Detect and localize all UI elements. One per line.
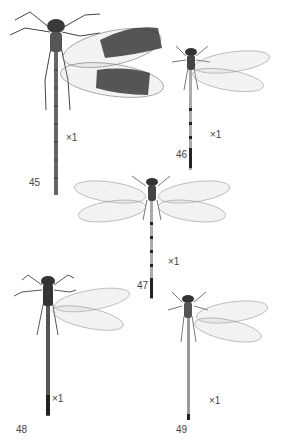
figure-46-scale: ×1 — [210, 130, 221, 140]
figure-48-number: 48 — [16, 425, 27, 435]
dragonfly-illustrations — [0, 0, 288, 443]
figure-47-insect — [73, 176, 231, 299]
figure-46-number: 46 — [176, 150, 187, 160]
figure-47-scale: ×1 — [168, 257, 179, 267]
figure-48-scale: ×1 — [52, 394, 63, 404]
figure-45-number: 45 — [29, 178, 40, 188]
illustration-plate: ×1 45 ×1 46 ×1 47 ×1 48 ×1 49 — [0, 0, 288, 443]
figure-45-insect — [10, 12, 166, 195]
figure-48-insect — [14, 275, 131, 416]
figure-49-scale: ×1 — [209, 396, 220, 406]
figure-47-number: 47 — [137, 281, 148, 291]
figure-45-scale: ×1 — [66, 133, 77, 143]
figure-49-number: 49 — [176, 425, 187, 435]
